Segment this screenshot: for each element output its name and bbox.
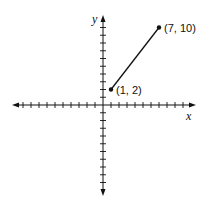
point-1-2 [109, 87, 113, 91]
coordinate-plane: x y (1, 2) (7, 10) [0, 0, 207, 201]
line-segment [111, 28, 159, 90]
point-label-1-2: (1, 2) [116, 84, 142, 96]
y-axis-up-arrow-icon [101, 15, 106, 22]
y-axis-label: y [91, 12, 98, 26]
x-axis-label: x [185, 109, 192, 123]
point-label-7-10: (7, 10) [164, 22, 196, 34]
x-axis-left-arrow-icon [12, 103, 19, 108]
point-7-10 [157, 25, 161, 29]
x-axis-right-arrow-icon [189, 103, 196, 108]
y-axis-down-arrow-icon [101, 189, 106, 196]
